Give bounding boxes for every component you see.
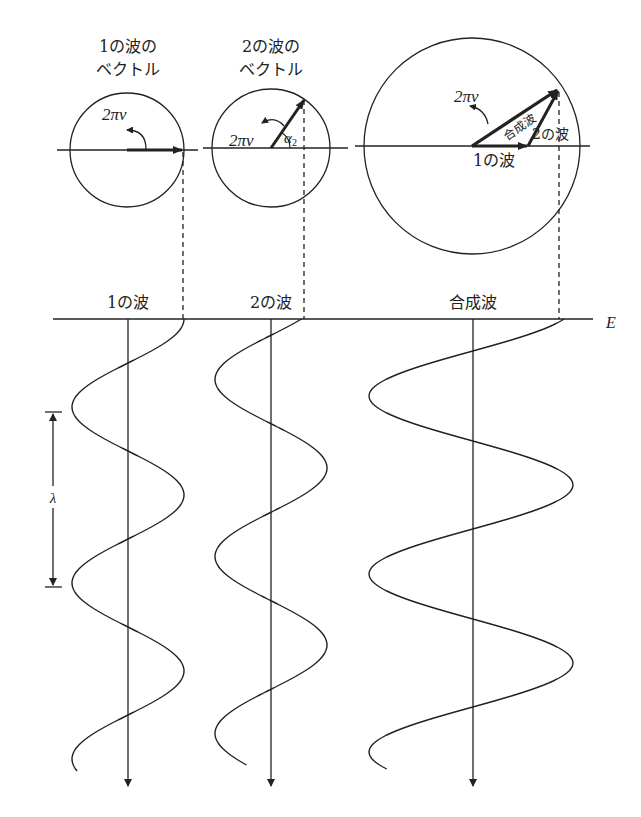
wavelength-label: λ	[49, 490, 57, 506]
wave1-label: 1の波	[107, 293, 149, 312]
field-axis-label: E	[605, 314, 616, 331]
phasor2-rotation-label: 2πν	[229, 131, 254, 150]
resultant-rotation-label: 2πν	[454, 87, 479, 106]
alpha-label: α2	[284, 130, 297, 148]
phasor2-title-line1: 2の波の	[242, 37, 300, 56]
sum-vector1-label: 1の波	[473, 151, 515, 170]
phasor-wave1: 1の波の ベクトル 2πν	[57, 37, 198, 207]
phasor1-title-line2: ベクトル	[96, 60, 160, 79]
resultant-wave-curve	[369, 319, 573, 769]
wavelength-marker: λ	[45, 412, 62, 587]
phasor2-title-line2: ベクトル	[239, 60, 303, 79]
phasor1-rotation-label: 2πν	[102, 105, 127, 124]
phasor-resultant: 2πν 合成波 2の波 1の波	[355, 38, 590, 319]
wave-superposition-diagram: 1の波の ベクトル 2πν 2の波の ベクトル 2πν α2 2πν 合成波 2…	[0, 0, 641, 817]
sum-vector2-label: 2の波	[532, 126, 569, 142]
rotation-arrow-icon	[127, 130, 146, 149]
rotation-arrow-icon	[262, 120, 284, 126]
phasor-wave2: 2の波の ベクトル 2πν α2	[203, 37, 348, 319]
rotation-arrow-icon	[470, 106, 488, 124]
resultant-wave-label: 合成波	[449, 293, 497, 312]
wave2-label: 2の波	[250, 293, 292, 312]
phasor1-title-line1: 1の波の	[99, 37, 157, 56]
